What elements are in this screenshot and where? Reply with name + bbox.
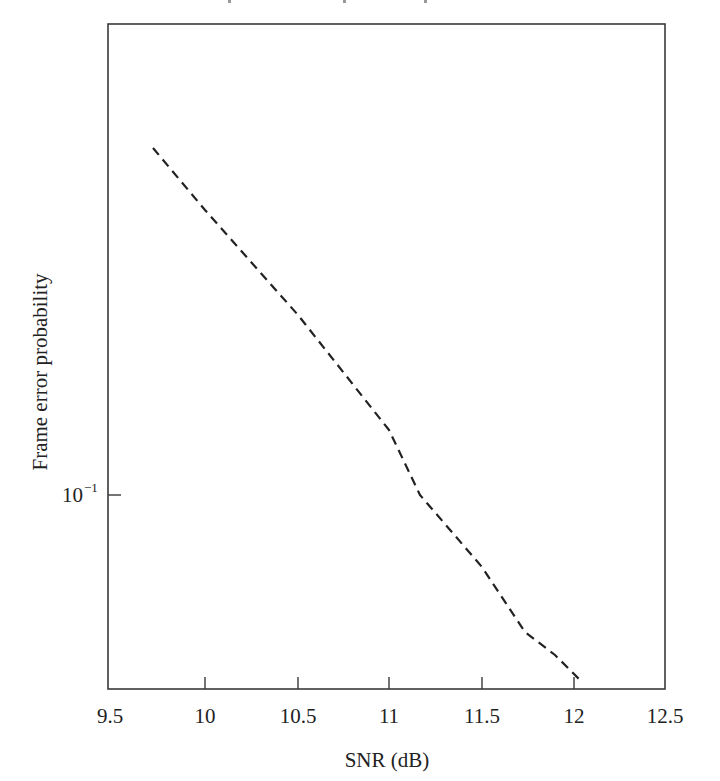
y-tick-label-base: 10 xyxy=(62,483,83,507)
fer-curve xyxy=(153,148,580,680)
x-axis-tick-labels: 9.5 10 10.5 11 11.5 12 12.5 xyxy=(97,704,684,728)
plot-frame xyxy=(108,24,665,689)
chart: 9.5 10 10.5 11 11.5 12 12.5 10 −1 SNR (d… xyxy=(0,0,720,781)
x-tick-label: 12 xyxy=(564,704,585,728)
x-tick-label: 10.5 xyxy=(280,704,317,728)
clipped-caption-fragments xyxy=(228,0,427,3)
x-tick-label: 10 xyxy=(195,704,216,728)
y-axis-label: Frame error probability xyxy=(28,273,52,471)
x-axis-ticks xyxy=(205,677,574,689)
y-tick-label-exponent: −1 xyxy=(84,480,98,495)
x-tick-label: 11.5 xyxy=(464,704,500,728)
x-tick-label: 9.5 xyxy=(97,704,123,728)
x-tick-label: 11 xyxy=(379,704,399,728)
x-axis-label: SNR (dB) xyxy=(345,748,430,772)
y-tick-label: 10 −1 xyxy=(62,480,98,507)
x-tick-label: 12.5 xyxy=(647,704,684,728)
